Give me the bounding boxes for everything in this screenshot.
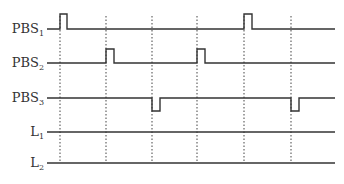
- signal-trace-pbs1: [47, 14, 335, 29]
- timing-diagram: PBS1PBS2PBS3L1L2: [0, 0, 344, 184]
- signal-label: L2: [30, 155, 44, 172]
- signal-label: PBS1: [12, 21, 44, 38]
- signal-labels: PBS1PBS2PBS3L1L2: [12, 21, 44, 172]
- signal-label: PBS2: [12, 55, 44, 72]
- signal-label: L1: [30, 124, 44, 141]
- signal-trace-pbs3: [47, 98, 335, 111]
- signal-traces: [47, 14, 335, 163]
- time-marker-gridlines: [60, 16, 291, 163]
- signal-trace-pbs2: [47, 49, 335, 63]
- signal-label: PBS3: [12, 90, 44, 107]
